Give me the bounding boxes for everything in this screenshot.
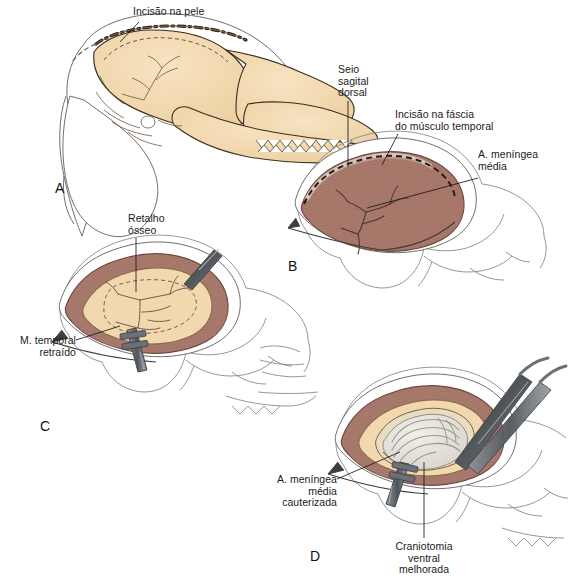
panel-letter-a: A bbox=[55, 180, 65, 196]
label-middle-meningeal-artery: A. meníngea média bbox=[478, 149, 538, 172]
label-bone-flap: Retalho ósseo bbox=[128, 213, 165, 236]
label-skin-incision: Incisão na pele bbox=[133, 6, 204, 18]
panel-a-incision-tail bbox=[72, 44, 96, 62]
label-temporal-fascia-incision: Incisão na fáscia do músculo temporal bbox=[395, 109, 493, 132]
label-cauterized-middle-meningeal-artery: A. meníngea média cauterizada bbox=[195, 474, 337, 509]
label-retracted-temporal-muscle: M. temporal retraído bbox=[8, 335, 76, 358]
panel-letter-b: B bbox=[288, 258, 298, 274]
panel-letter-c: C bbox=[40, 418, 51, 434]
panel-b-fascia-cut-point bbox=[288, 218, 300, 228]
panel-letter-d: D bbox=[310, 548, 321, 564]
panel-c-illustration bbox=[52, 235, 316, 414]
figure-root: Incisão na pele A Seio sagital dorsal In… bbox=[0, 0, 570, 583]
label-dorsal-sagittal-sinus: Seio sagital dorsal bbox=[338, 64, 369, 99]
label-improved-ventral-craniotomy: Craniotomia ventral melhorada bbox=[383, 541, 465, 576]
panel-d-illustration bbox=[258, 346, 568, 546]
